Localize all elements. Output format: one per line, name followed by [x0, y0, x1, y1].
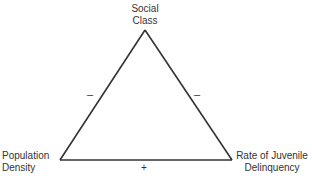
node-juvenile-delinquency-line1: Rate of Juvenile — [232, 150, 312, 162]
node-population-density-line1: Population — [2, 150, 49, 162]
node-juvenile-delinquency-line2: Delinquency — [232, 162, 312, 174]
node-population-density-line2: Density — [2, 162, 49, 174]
edge-social-class-juvenile-delinquency — [145, 30, 232, 160]
edge-social-class-population-density — [60, 30, 145, 160]
sign-positive-bottom: + — [141, 162, 147, 174]
node-social-class: Social Class — [115, 3, 175, 27]
node-population-density: Population Density — [2, 150, 49, 174]
sign-negative-left: – — [87, 88, 93, 100]
sign-negative-right: – — [194, 88, 200, 100]
causal-triangle-diagram: Social Class Population Density Rate of … — [0, 0, 312, 183]
node-social-class-line2: Class — [115, 15, 175, 27]
node-juvenile-delinquency: Rate of Juvenile Delinquency — [232, 150, 312, 174]
node-social-class-line1: Social — [115, 3, 175, 15]
